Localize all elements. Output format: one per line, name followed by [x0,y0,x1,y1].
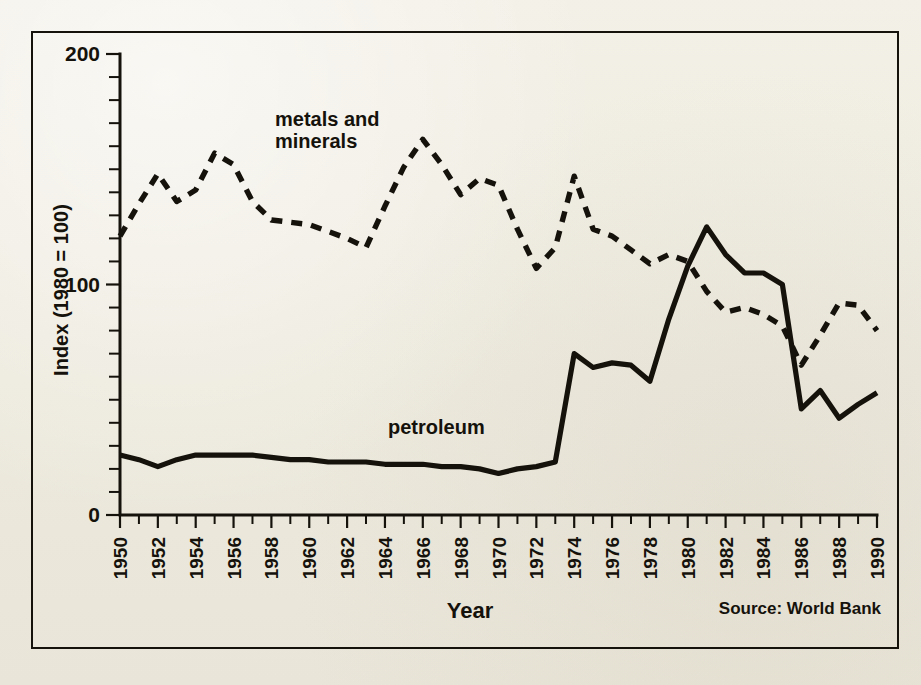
x-axis-tick-label: 1954 [186,537,207,580]
x-axis-tick-label: 1962 [337,537,358,579]
x-axis-tick-label: 1984 [753,537,774,580]
series-petroleum [120,227,877,474]
price-index-chart: 0100200 19501952195419561958196019621964… [0,0,921,685]
x-axis-title: Year [447,598,494,623]
x-axis-tick-labels: 1950195219541956195819601962196419661968… [110,537,888,580]
x-axis-tick-label: 1970 [489,537,510,579]
figure-page: 0100200 19501952195419561958196019621964… [0,0,921,685]
x-axis-tick-label: 1950 [110,537,131,579]
series-metals-and-minerals [120,139,877,365]
x-axis-tick-label: 1952 [148,537,169,579]
x-axis-ticks [120,515,877,528]
x-axis-tick-label: 1980 [678,537,699,579]
x-axis-tick-label: 1986 [791,537,812,579]
x-axis-tick-label: 1982 [716,537,737,579]
metals-label-line1: metals and [275,108,379,130]
source-note: Source: World Bank [719,599,882,618]
y-axis-ticks [106,54,120,515]
x-axis-tick-label: 1964 [375,537,396,580]
x-axis-tick-label: 1968 [451,537,472,579]
x-axis-tick-label: 1990 [867,537,888,579]
metals-label-line2: minerals [275,130,357,152]
x-axis-tick-label: 1976 [602,537,623,579]
x-axis-tick-label: 1972 [526,537,547,579]
x-axis-tick-label: 1958 [261,537,282,579]
x-axis-tick-label: 1956 [224,537,245,579]
y-axis-title: Index (1980 = 100) [50,204,72,376]
y-axis-tick-label: 200 [65,42,100,65]
x-axis-tick-label: 1988 [829,537,850,579]
x-axis-tick-label: 1978 [640,537,661,579]
x-axis-tick-label: 1960 [299,537,320,579]
petroleum-label: petroleum [388,416,485,438]
x-axis-tick-label: 1966 [413,537,434,579]
y-axis-tick-label: 0 [88,503,100,526]
x-axis-tick-label: 1974 [564,537,585,580]
axis-lines [120,54,877,515]
